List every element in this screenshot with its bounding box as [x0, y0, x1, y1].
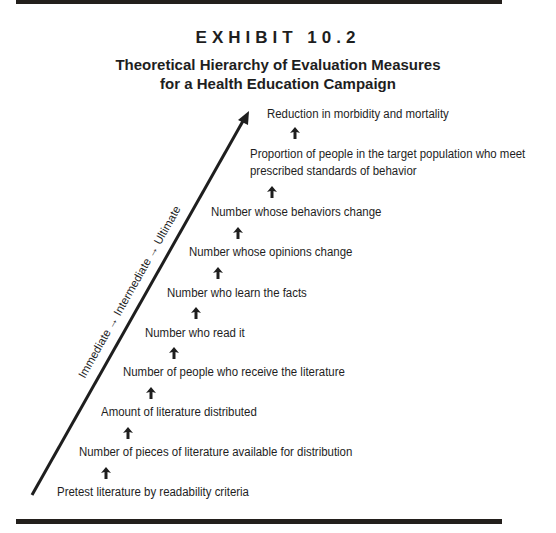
- up-arrow-icon: [267, 186, 277, 198]
- level-read-it: Number who read it: [145, 325, 245, 342]
- level-behaviors-change: Number whose behaviors change: [211, 204, 381, 221]
- up-arrow-icon: [169, 347, 179, 359]
- level-amount-distributed: Amount of literature distributed: [101, 404, 257, 421]
- level-pretest-literature: Pretest literature by readability criter…: [57, 484, 249, 501]
- level-pieces-available: Number of pieces of literature available…: [79, 444, 352, 461]
- up-arrow-icon: [146, 387, 156, 399]
- up-arrow-icon: [290, 127, 300, 139]
- up-arrow-icon: [213, 267, 223, 279]
- level-reduction-morbidity: Reduction in morbidity and mortality: [267, 106, 449, 123]
- level-opinions-change: Number whose opinions change: [189, 244, 352, 261]
- up-arrow-icon: [123, 427, 133, 439]
- level-receive-literature: Number of people who receive the literat…: [123, 364, 345, 381]
- level-learn-facts: Number who learn the facts: [167, 285, 307, 302]
- up-arrow-icon: [101, 467, 111, 479]
- bottom-rule: [16, 519, 502, 524]
- level-proportion-line-2: prescribed standards of behavior: [250, 163, 525, 180]
- level-proportion-meeting-standards: Proportion of people in the target popul…: [250, 146, 525, 180]
- up-arrow-icon: [233, 227, 243, 239]
- up-arrow-icon: [191, 307, 201, 319]
- level-proportion-line-1: Proportion of people in the target popul…: [250, 146, 525, 163]
